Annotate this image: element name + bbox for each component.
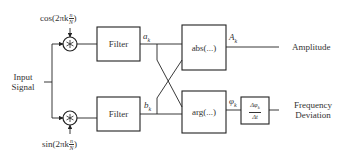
sin-prefix: sin(2πk xyxy=(42,139,69,149)
cos-prefix: cos(2πk xyxy=(40,13,69,23)
input-signal-label: Input Signal xyxy=(4,72,42,92)
derivative-num: Δφk xyxy=(249,101,260,112)
phik-label: φk xyxy=(229,96,237,110)
abs-label: abs(...) xyxy=(182,25,226,70)
derivative-den: Δt xyxy=(252,113,258,120)
freq-line1: Frequency xyxy=(288,100,338,110)
arg-label: arg(...) xyxy=(182,91,226,133)
sin-suffix: ) xyxy=(74,139,77,149)
freq-line2: Deviation xyxy=(288,110,338,120)
ak-sub: k xyxy=(148,37,151,43)
sin-den: N xyxy=(70,145,74,151)
deriv-num-base: Δφ xyxy=(250,101,257,108)
derivative-label: Δφk Δt xyxy=(241,97,269,124)
amplitude-label: Amplitude xyxy=(292,42,331,52)
bk-to-abs xyxy=(157,60,182,114)
input-label-line1: Input xyxy=(4,72,42,82)
cos-suffix: ) xyxy=(74,13,77,23)
ak-to-arg xyxy=(157,44,182,107)
ak-label: ak xyxy=(143,31,150,45)
Ak-label: Ak xyxy=(229,32,237,46)
phik-sub: k xyxy=(234,102,237,108)
cos-reference-label: cos(2πknN) xyxy=(40,12,77,25)
Ak-sub: k xyxy=(235,38,238,44)
sin-reference-label: sin(2πknN) xyxy=(42,138,77,151)
bottom-filter-label: Filter xyxy=(97,97,140,131)
frequency-deviation-label: Frequency Deviation xyxy=(288,100,338,120)
top-filter-label: Filter xyxy=(97,27,140,61)
cos-den: N xyxy=(69,19,73,25)
deriv-num-sub: k xyxy=(258,106,260,111)
input-label-line2: Signal xyxy=(4,82,42,92)
bk-label: bk xyxy=(144,100,151,114)
bk-sub: k xyxy=(149,106,152,112)
